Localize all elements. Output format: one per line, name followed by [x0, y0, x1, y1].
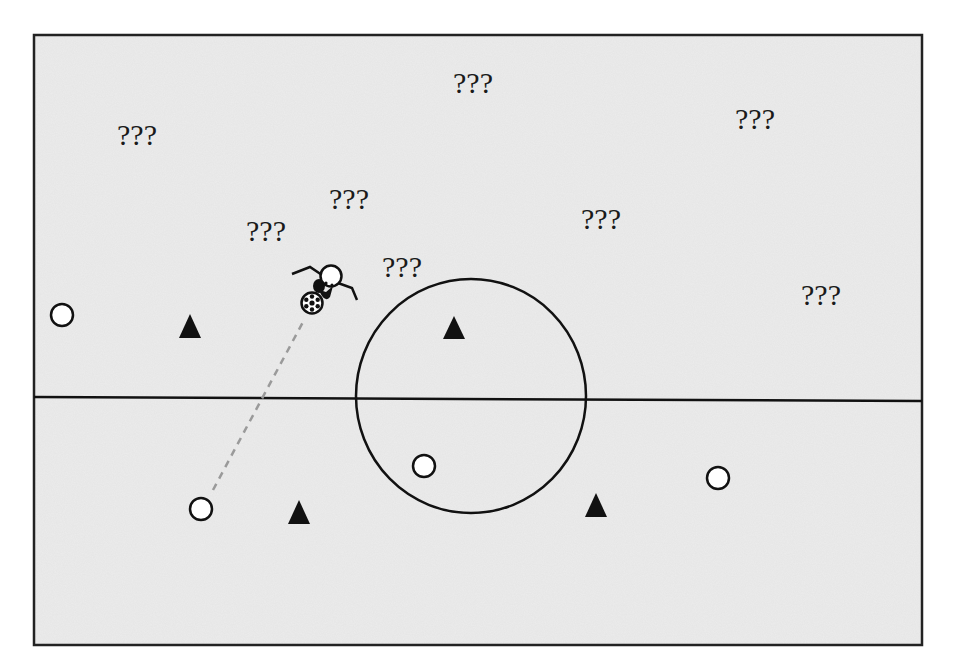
eye-left [324, 281, 327, 284]
unknown-label-4: ??? [329, 184, 369, 214]
unknown-label-7: ??? [382, 252, 422, 282]
eye-right [330, 283, 333, 286]
unknown-label-6: ??? [246, 216, 286, 246]
player-circle-4 [707, 467, 729, 489]
unknown-label-3: ??? [735, 104, 775, 134]
unknown-label-8: ??? [801, 280, 841, 310]
unknown-label-5: ??? [581, 204, 621, 234]
unknown-label-2: ??? [453, 68, 493, 98]
head [321, 266, 342, 287]
player-circle-3 [413, 455, 435, 477]
player-circle-1 [51, 304, 73, 326]
unknown-label-1: ??? [117, 120, 157, 150]
field [34, 35, 922, 645]
ball-icon [302, 293, 323, 314]
soccer-field-diagram [0, 0, 955, 672]
player-circle-2 [190, 498, 212, 520]
